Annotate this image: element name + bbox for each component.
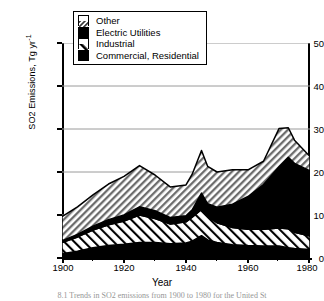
legend-item-electric-utilities: Electric Utilities	[78, 27, 199, 39]
area-layers	[62, 128, 310, 258]
x-tick-label-1980: 1980	[290, 262, 324, 273]
chart-legend: Other Electric Utilities Industrial Comm…	[73, 11, 207, 65]
diagonal-stripe-swatch-icon	[78, 38, 89, 49]
x-axis-title: Year	[0, 277, 324, 288]
legend-label-electric-utilities: Electric Utilities	[96, 27, 160, 39]
x-minor-mark-1930	[154, 258, 155, 261]
x-tick-label-1940: 1940	[169, 262, 203, 273]
solid-black-swatch-icon	[78, 27, 89, 38]
legend-item-industrial: Industrial	[78, 38, 199, 50]
x-minor-mark-1950	[216, 258, 217, 261]
y-axis-title-superscript: -1	[25, 34, 32, 40]
legend-label-other: Other	[96, 15, 120, 27]
stacked-area-chart	[62, 43, 310, 258]
x-minor-mark-1910	[92, 258, 93, 261]
x-minor-mark-1970	[277, 258, 278, 261]
x-tick-label-1920: 1920	[107, 262, 141, 273]
x-tick-label-1900: 1900	[46, 262, 80, 273]
cross-hatch-swatch-icon	[78, 15, 89, 26]
y-axis-title: SO2 Emissions, Tg yr-1	[25, 7, 37, 157]
solid-black-swatch-icon-2	[78, 50, 89, 61]
legend-label-commercial-residential: Commercial, Residential	[96, 50, 199, 62]
figure-caption: 8.1 Trends in SO2 emissions from 1900 to…	[0, 291, 324, 300]
legend-label-industrial: Industrial	[96, 38, 135, 50]
legend-item-other: Other	[78, 15, 199, 27]
figure-so2-emissions: SO2 Emissions, Tg yr-1 50 40 30 20 10 0	[0, 0, 324, 301]
legend-item-commercial-residential: Commercial, Residential	[78, 50, 199, 62]
y-axis-title-text: SO2 Emissions, Tg yr	[27, 41, 37, 130]
x-tick-label-1960: 1960	[231, 262, 265, 273]
